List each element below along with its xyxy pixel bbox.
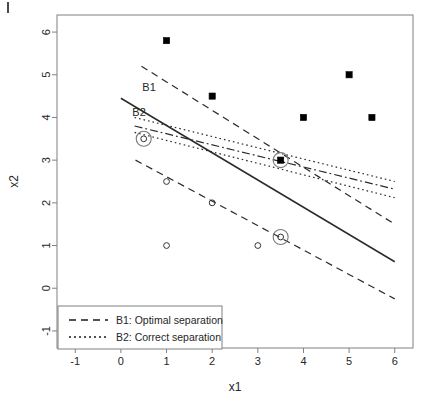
x-tick-label: 0 xyxy=(118,355,124,367)
point-filled-square xyxy=(209,93,215,99)
x-tick-label: 2 xyxy=(209,355,215,367)
y-tick-label: 5 xyxy=(40,72,52,78)
y-tick-label: 1 xyxy=(40,242,52,248)
x-axis-title: x1 xyxy=(229,380,242,394)
point-filled-square xyxy=(163,38,169,44)
b2-label: B2 xyxy=(132,106,145,118)
b1-label: B1 xyxy=(142,81,155,93)
legend-label: B2: Correct separation xyxy=(116,331,221,343)
point-filled-square xyxy=(300,114,306,120)
plot-panel xyxy=(57,15,413,348)
y-tick-label: 6 xyxy=(40,29,52,35)
y-axis-title: x2 xyxy=(7,175,21,188)
y-tick-label: 3 xyxy=(40,157,52,163)
point-filled-square xyxy=(278,157,284,163)
legend: B1: Optimal separationB2: Correct separa… xyxy=(58,306,223,349)
legend-label: B1: Optimal separation xyxy=(116,314,223,326)
y-tick-label: 2 xyxy=(40,200,52,206)
y-tick-label: 0 xyxy=(40,285,52,291)
x-tick-label: 4 xyxy=(300,355,306,367)
x-tick-label: -1 xyxy=(70,355,80,367)
x-tick-label: 6 xyxy=(392,355,398,367)
x-tick-label: 3 xyxy=(255,355,261,367)
point-filled-square xyxy=(369,114,375,120)
scatter-plot-svg: -10123456-10123456x1x2 B1B2 B1: Optimal … xyxy=(0,0,435,400)
x-tick-label: 5 xyxy=(346,355,352,367)
y-tick-label: -1 xyxy=(40,326,52,336)
x-tick-label: 1 xyxy=(163,355,169,367)
corner-artifact-mark xyxy=(7,2,9,13)
point-filled-square xyxy=(346,72,352,78)
figure-container: -10123456-10123456x1x2 B1B2 B1: Optimal … xyxy=(0,0,435,400)
y-tick-label: 4 xyxy=(40,114,52,120)
